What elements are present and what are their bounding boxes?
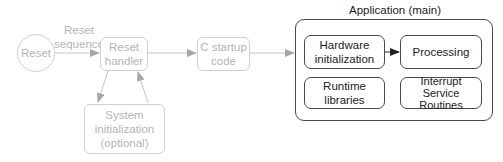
- interrupt-service-routines-node: Interrupt Service Routines: [400, 77, 482, 109]
- c-startup-node: C startup code: [197, 37, 250, 71]
- reset-sequence-label: Reset sequence: [54, 23, 104, 51]
- processing-node: Processing: [400, 35, 482, 69]
- reset-handler-node: Reset handler: [100, 37, 148, 71]
- edge-handler-to-sysinit: [98, 71, 108, 102]
- system-init-node: System initialization (optional): [84, 104, 165, 154]
- runtime-libraries-node: Runtime libraries: [304, 77, 385, 109]
- hardware-init-node: Hardware initialization: [304, 35, 385, 69]
- reset-node: Reset: [17, 34, 55, 72]
- edge-sysinit-to-handler: [138, 72, 148, 103]
- boot-flow-diagram: Application (main) Reset sequence Reset: [0, 0, 503, 162]
